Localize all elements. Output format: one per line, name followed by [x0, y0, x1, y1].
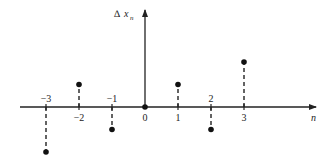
x-tick-label: −3	[41, 93, 52, 104]
stem-marker	[76, 82, 82, 88]
stem-marker	[241, 59, 247, 65]
stem-marker	[175, 82, 181, 88]
stem-marker	[43, 149, 49, 155]
stem-marker	[208, 127, 214, 133]
x-tick-label: 0	[143, 112, 148, 123]
y-axis-symbol: ∆	[114, 8, 120, 19]
y-axis-label-sub: n	[130, 14, 134, 22]
stem-marker	[109, 127, 115, 133]
x-tick-label: 3	[242, 112, 247, 123]
x-tick-label: −1	[107, 93, 118, 104]
x-tick-label: 1	[176, 112, 181, 123]
y-axis-label: x	[123, 8, 129, 19]
stem-marker	[142, 104, 148, 110]
x-axis-label: n	[311, 112, 316, 123]
stem-plot: ∆ x n n −3−2−10123	[0, 0, 335, 162]
x-tick-label: −2	[74, 112, 85, 123]
x-tick-label: 2	[209, 93, 214, 104]
